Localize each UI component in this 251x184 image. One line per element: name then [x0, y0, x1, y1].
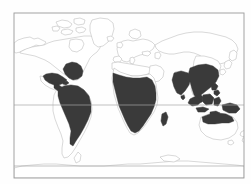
world-distribution-figure	[0, 0, 251, 184]
world-map	[0, 0, 251, 184]
coastline-arctic-islands-b	[74, 18, 85, 25]
coastline-kamchatka	[229, 50, 237, 61]
